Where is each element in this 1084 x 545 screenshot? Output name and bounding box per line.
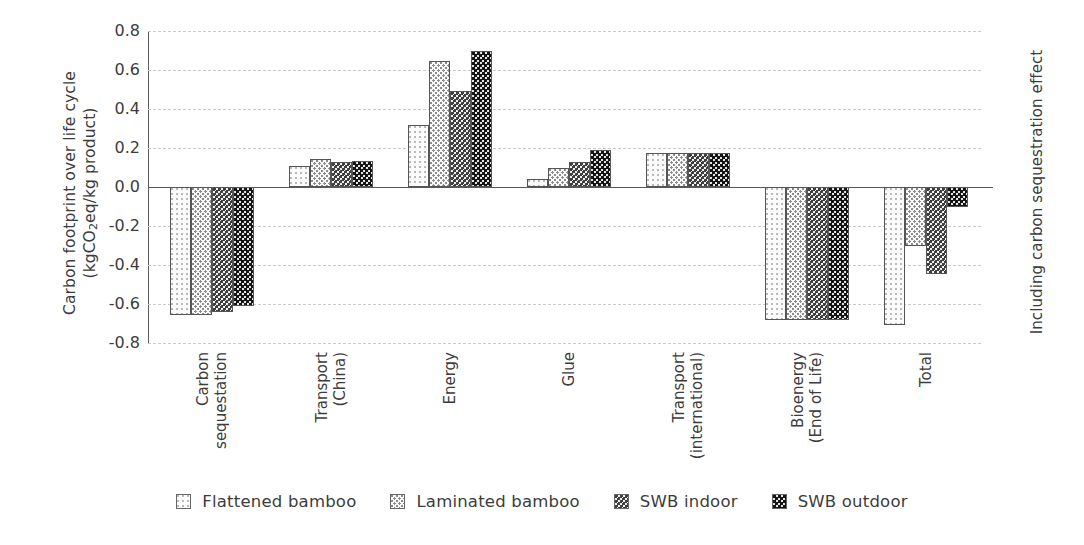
bar[interactable]	[905, 187, 926, 246]
category-label-line: Energy	[441, 352, 459, 502]
bar[interactable]	[548, 168, 569, 187]
x-axis-category-label: Glue	[560, 352, 578, 502]
bar[interactable]	[884, 187, 905, 325]
category-label-line: (international)	[688, 352, 706, 502]
category-label-line: Bioenergy	[789, 352, 807, 502]
bar[interactable]	[709, 153, 730, 187]
legend-swatch-icon	[390, 494, 405, 509]
bar[interactable]	[233, 187, 254, 306]
bar[interactable]	[688, 153, 709, 187]
category-label-line: (China)	[331, 352, 349, 502]
legend-swatch-icon	[176, 494, 191, 509]
bar[interactable]	[429, 61, 450, 187]
category-label-line: Carbon	[194, 352, 212, 502]
category-label-line: (End of Life)	[807, 352, 825, 502]
y-tick-label: -0.2	[82, 216, 140, 235]
plot-area	[148, 31, 981, 343]
y-tick-label: -0.6	[82, 294, 140, 313]
bar[interactable]	[807, 187, 828, 320]
bar[interactable]	[828, 187, 849, 320]
category-label-line: Glue	[560, 352, 578, 502]
y-tick-label: 0.8	[82, 21, 140, 40]
category-label-line: sequestation	[212, 352, 230, 502]
bar-group	[289, 31, 373, 343]
y-tick-label: -0.4	[82, 255, 140, 274]
x-axis-category-label: Transport(China)	[313, 352, 349, 502]
bar[interactable]	[170, 187, 191, 315]
legend-swatch-icon	[614, 494, 629, 509]
bar-group	[646, 31, 730, 343]
bar[interactable]	[310, 159, 331, 187]
bar[interactable]	[212, 187, 233, 312]
bar[interactable]	[471, 51, 492, 188]
bar-group	[527, 31, 611, 343]
bar[interactable]	[289, 166, 310, 187]
y-axis-tick-labels: 0.80.60.40.20.0-0.2-0.4-0.6-0.8	[78, 31, 140, 343]
bar[interactable]	[786, 187, 807, 320]
x-axis-category-label: Bioenergy(End of Life)	[789, 352, 825, 502]
category-label-line: Total	[917, 352, 935, 502]
bar[interactable]	[331, 162, 352, 187]
x-axis-category-label: Transport(international)	[670, 352, 706, 502]
bar[interactable]	[667, 153, 688, 187]
x-axis-category-label: Energy	[441, 352, 459, 502]
y-tick-label: 0.6	[82, 60, 140, 79]
bar[interactable]	[569, 162, 590, 187]
legend-item[interactable]: Laminated bamboo	[390, 492, 579, 511]
y-tick-label: -0.8	[82, 333, 140, 352]
bar-group	[408, 31, 492, 343]
bar[interactable]	[450, 91, 471, 187]
bar-group	[170, 31, 254, 343]
gridline	[148, 343, 981, 344]
bar[interactable]	[947, 187, 968, 207]
x-axis-category-label: Total	[917, 352, 935, 502]
y-axis-title-right: Including carbon sequestration effect	[1028, 22, 1050, 362]
y-tick-label: 0.2	[82, 138, 140, 157]
bar[interactable]	[765, 187, 786, 320]
bar-group	[884, 31, 968, 343]
bar[interactable]	[527, 179, 548, 187]
category-label-line: Transport	[313, 352, 331, 502]
y-tick-label: 0.0	[82, 177, 140, 196]
y-tick-label: 0.4	[82, 99, 140, 118]
bar[interactable]	[352, 161, 373, 187]
category-label-line: Transport	[670, 352, 688, 502]
x-axis-category-label: Carbonsequestation	[194, 352, 230, 502]
bar-group	[765, 31, 849, 343]
bar[interactable]	[926, 187, 947, 274]
chart-figure: Carbon footprint over life cycle (kgCO2e…	[0, 0, 1084, 545]
bar[interactable]	[191, 187, 212, 315]
bar[interactable]	[590, 150, 611, 187]
bar[interactable]	[408, 125, 429, 187]
y-axis-title-line1: Carbon footprint over life cycle	[61, 71, 79, 315]
bar[interactable]	[646, 153, 667, 187]
legend-swatch-icon	[772, 494, 787, 509]
